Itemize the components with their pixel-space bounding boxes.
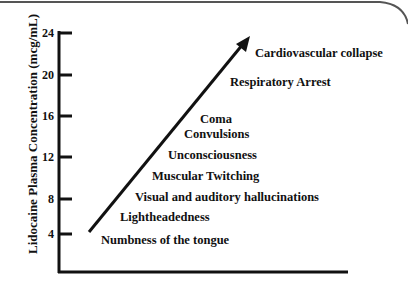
- event-label: Lightheadedness: [120, 210, 210, 224]
- y-tick-label: 12: [34, 150, 54, 164]
- y-tick-label: 16: [34, 109, 54, 123]
- event-label: Respiratory Arrest: [230, 75, 331, 89]
- y-tick-label: 4: [34, 227, 54, 241]
- event-label: Convulsions: [184, 127, 249, 141]
- event-label: Numbness of the tongue: [101, 233, 229, 247]
- y-tick-label: 8: [34, 192, 54, 206]
- y-tick-label: 24: [34, 26, 54, 40]
- event-label: Cardiovascular collapse: [255, 46, 383, 60]
- event-label: Visual and auditory hallucinations: [135, 190, 319, 204]
- event-label: Muscular Twitching: [152, 169, 259, 183]
- event-label: Unconsciousness: [168, 148, 257, 162]
- event-label: Coma: [200, 112, 232, 126]
- y-ticks: [59, 33, 72, 234]
- y-tick-label: 20: [34, 68, 54, 82]
